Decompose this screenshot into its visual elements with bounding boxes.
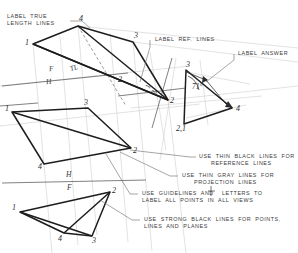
- point-label-answer-2-1: 2,1: [176, 124, 186, 133]
- annotation-use-thin-black-lines: USE THIN BLACK LINES FOR REFERENCE LINES: [199, 153, 295, 167]
- horizontal-view-shape: [12, 108, 131, 164]
- ref-label-hf-bottom: F: [67, 183, 72, 192]
- point-label-horiz-3: 3: [84, 98, 88, 107]
- point-label-horiz-1: 1: [5, 104, 9, 113]
- point-label-front-3: 3: [92, 236, 96, 245]
- point-label-aux-1: 1: [25, 38, 29, 47]
- ref-label-fh-bottom: H: [46, 77, 52, 87]
- point-label-edge-2: 2: [118, 75, 122, 84]
- point-label-answer-3: 3: [186, 60, 190, 69]
- point-label-answer-4: 4: [236, 104, 240, 113]
- annotation-label-true-length-lines: LABEL TRUE LENGTH LINES: [7, 13, 55, 27]
- point-label-front-2: 2: [112, 186, 116, 195]
- ref-line-hf: [2, 180, 146, 183]
- annotation-label-ref-lines: LABEL REF. LINES: [155, 36, 215, 43]
- point-label-aux-3: 3: [134, 31, 138, 40]
- point-label-aux-4: 4: [79, 14, 83, 23]
- ref-label-fh-top: F: [49, 64, 55, 73]
- annotation-use-strong-black-lines: USE STRONG BLACK LINES FOR POINTS, LINES…: [144, 216, 281, 230]
- point-label-horiz-4: 4: [38, 162, 42, 171]
- point-label-front-4: 4: [58, 234, 62, 243]
- point-label-horiz-2: 2: [133, 146, 137, 155]
- reference-lines-group: [0, 58, 186, 183]
- annotation-use-guidelines: USE GUIDELINES AND LETTERS TO LABEL ALL …: [142, 190, 263, 204]
- point-label-aux-2: 2: [170, 96, 174, 105]
- ref-label-hf-top: H: [66, 170, 71, 179]
- point-label-front-1: 1: [12, 203, 16, 212]
- annotation-use-thin-gray-lines: USE THIN GRAY LINES FOR PROJECTION LINES: [182, 172, 274, 186]
- answer-angle-value: 71°: [192, 82, 203, 91]
- annotation-label-answer: LABEL ANSWER: [238, 50, 288, 57]
